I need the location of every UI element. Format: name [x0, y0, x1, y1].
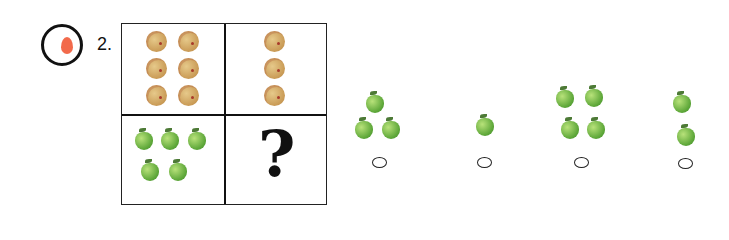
cookie-icon	[178, 58, 199, 79]
apple-icon	[135, 132, 153, 150]
apple-icon	[188, 132, 206, 150]
apple-icon	[587, 121, 605, 139]
apple-icon	[673, 95, 691, 113]
apple-icon	[556, 90, 574, 108]
question-marker	[41, 24, 83, 66]
option-1-radio[interactable]	[372, 157, 387, 168]
cookie-icon	[178, 31, 199, 52]
cookie-icon	[264, 58, 285, 79]
cookie-icon	[178, 85, 199, 106]
apple-icon	[355, 121, 373, 139]
cookie-icon	[146, 31, 167, 52]
apple-icon	[382, 121, 400, 139]
balloon-icon	[61, 37, 73, 54]
cookie-icon	[146, 85, 167, 106]
question-number: 2.	[97, 34, 112, 55]
cookie-icon	[264, 31, 285, 52]
apple-icon	[561, 121, 579, 139]
apple-icon	[476, 118, 494, 136]
apple-icon	[585, 89, 603, 107]
option-3-radio[interactable]	[574, 157, 589, 168]
apple-icon	[677, 128, 695, 146]
apple-icon	[169, 163, 187, 181]
analogy-grid	[121, 23, 327, 205]
apple-icon	[161, 132, 179, 150]
apple-icon	[141, 163, 159, 181]
question-mark: ?	[258, 122, 296, 186]
cookie-icon	[264, 85, 285, 106]
option-2-radio[interactable]	[477, 157, 492, 168]
cookie-icon	[146, 58, 167, 79]
apple-icon	[366, 95, 384, 113]
option-4-radio[interactable]	[678, 158, 693, 169]
